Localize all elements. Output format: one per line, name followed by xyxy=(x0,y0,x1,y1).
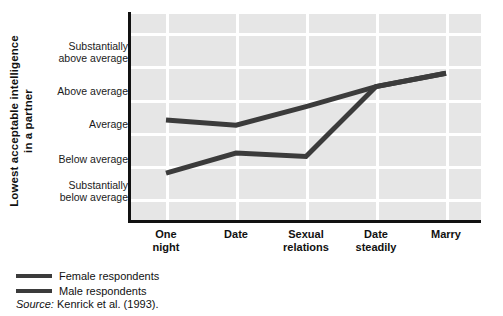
y-tick-line-1: Below average xyxy=(44,154,128,166)
y-tick-label-below-average: Below average xyxy=(44,154,128,166)
legend-label-female: Female respondents xyxy=(59,270,159,282)
x-axis-line xyxy=(128,220,481,223)
legend-swatch-female-icon xyxy=(16,274,52,278)
y-tick-line-1: Above average xyxy=(44,86,128,98)
x-tick-line-2: steadily xyxy=(334,241,418,254)
y-tick-label-substantially-above-average: Substantially above average xyxy=(44,41,128,64)
y-tick-line-2: above average xyxy=(44,53,128,65)
y-tick-line-1: Substantially xyxy=(44,180,128,192)
y-tick-label-substantially-below-average: Substantially below average xyxy=(44,180,128,203)
source-text: Kenrick et al. (1993). xyxy=(57,298,159,310)
legend-label-male: Male respondents xyxy=(59,285,146,297)
source-note: Source: Kenrick et al. (1993). xyxy=(16,298,158,310)
x-tick-line-1: Marry xyxy=(404,228,488,241)
y-tick-line-1: Average xyxy=(44,119,128,131)
data-lines xyxy=(131,14,481,220)
y-axis-title: Lowest acceptable intelligence in a part… xyxy=(0,18,42,223)
x-tick-label-marry: Marry xyxy=(404,228,488,241)
y-tick-line-2: below average xyxy=(44,192,128,204)
x-tick-line-2: night xyxy=(124,241,208,254)
legend-swatch-male-icon xyxy=(16,289,52,293)
legend-item-female: Female respondents xyxy=(16,270,316,282)
y-axis-line xyxy=(128,12,131,223)
source-prefix: Source: xyxy=(16,298,54,310)
y-tick-label-average: Average xyxy=(44,119,128,131)
y-tick-label-above-average: Above average xyxy=(44,86,128,98)
y-axis-tick-labels: Substantially above average Above averag… xyxy=(44,14,128,220)
plot-area xyxy=(131,14,481,220)
y-axis-title-line-2: in a partner xyxy=(21,35,35,207)
chart-figure: Lowest acceptable intelligence in a part… xyxy=(0,0,503,316)
x-axis-tick-labels: One night Date Sexual relations Date ste… xyxy=(131,228,481,262)
y-tick-line-1: Substantially xyxy=(44,41,128,53)
legend-item-male: Male respondents xyxy=(16,285,316,297)
y-axis-title-line-1: Lowest acceptable intelligence xyxy=(8,35,22,207)
chart-legend: Female respondents Male respondents xyxy=(16,270,316,300)
